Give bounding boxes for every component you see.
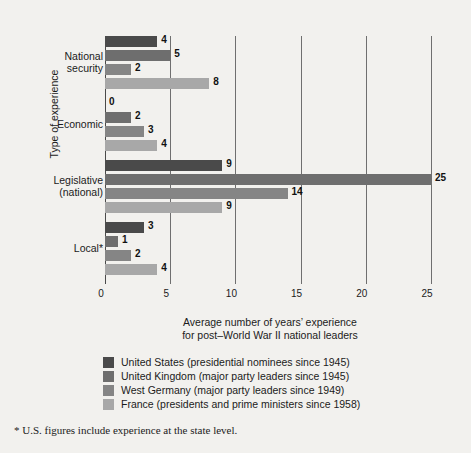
x-tick-label-5: 5 [163,288,169,299]
bar[interactable] [105,126,144,137]
bar[interactable] [105,236,118,247]
category-label-line: Local* [45,242,103,254]
bar-chart: Type of experience 452802349251493124 Na… [0,0,471,453]
bar-row[interactable]: 2 [105,250,431,261]
x-tick-label-25: 25 [421,288,432,299]
footnote: * U.S. figures include experience at the… [14,424,237,436]
bar-group: 925149 [105,160,431,216]
bar-row[interactable]: 4 [105,264,431,275]
bar-value-label: 3 [148,124,154,135]
legend-label: United States (presidential nominees sin… [121,356,350,368]
bar[interactable] [105,36,157,47]
legend-swatch-icon [103,385,114,396]
bar-row[interactable]: 2 [105,64,431,75]
bar[interactable] [105,250,131,261]
bar-value-label: 2 [135,62,141,73]
category-label: Legislative(national) [45,174,103,198]
bar-group: 4528 [105,36,431,92]
bar-value-label: 4 [161,138,167,149]
bar[interactable] [105,222,144,233]
bar-row[interactable]: 1 [105,236,431,247]
bar-value-label: 9 [226,158,232,169]
legend-item[interactable]: United Kingdom (major party leaders sinc… [103,369,360,383]
bar[interactable] [105,188,288,199]
x-tick-label-0: 0 [98,288,104,299]
legend-label: United Kingdom (major party leaders sinc… [121,370,349,382]
bar-value-label: 2 [135,110,141,121]
bar-value-label: 4 [161,34,167,45]
bar-group: 3124 [105,222,431,278]
bar-row[interactable]: 3 [105,222,431,233]
x-tick-label-10: 10 [226,288,237,299]
bar-value-label: 25 [435,172,446,183]
bar[interactable] [105,140,157,151]
x-tick-label-20: 20 [356,288,367,299]
bar-row[interactable]: 14 [105,188,431,199]
x-axis-title-line-1: Average number of years’ experience [105,316,435,329]
bar-row[interactable]: 3 [105,126,431,137]
legend-item[interactable]: West Germany (major party leaders since … [103,383,360,397]
bar-row[interactable]: 4 [105,36,431,47]
bar-value-label: 0 [109,96,115,107]
legend-swatch-icon [103,399,114,410]
category-label-line: Economic [45,118,103,130]
legend-label: France (presidents and prime ministers s… [121,398,360,410]
bar[interactable] [105,160,222,171]
category-label-line: (national) [45,186,103,198]
category-label: Nationalsecurity [45,50,103,74]
legend-swatch-icon [103,357,114,368]
bar-row[interactable]: 5 [105,50,431,61]
bar-value-label: 3 [148,220,154,231]
category-label: Local* [45,242,103,254]
bar-row[interactable]: 9 [105,202,431,213]
bar[interactable] [105,264,157,275]
bar-value-label: 9 [226,200,232,211]
bar-row[interactable]: 0 [105,98,431,109]
category-label-line: National [45,50,103,62]
bar[interactable] [105,50,170,61]
bar-row[interactable]: 9 [105,160,431,171]
bar-group: 0234 [105,98,431,154]
bar[interactable] [105,64,131,75]
bar-value-label: 14 [292,186,303,197]
gridline-25 [431,36,432,284]
legend: United States (presidential nominees sin… [103,355,360,411]
category-label-line: Legislative [45,174,103,186]
bar-row[interactable]: 2 [105,112,431,123]
x-axis-title-line-2: for post–World War II national leaders [105,329,435,342]
plot-area: 452802349251493124 [105,36,431,284]
bar-value-label: 4 [161,262,167,273]
category-label: Economic [45,118,103,130]
legend-swatch-icon [103,371,114,382]
legend-label: West Germany (major party leaders since … [121,384,344,396]
bar-row[interactable]: 8 [105,78,431,89]
x-axis-title: Average number of years’ experience for … [105,316,435,342]
legend-item[interactable]: United States (presidential nominees sin… [103,355,360,369]
legend-item[interactable]: France (presidents and prime ministers s… [103,397,360,411]
bar[interactable] [105,112,131,123]
bar-value-label: 5 [174,48,180,59]
bar[interactable] [105,174,431,185]
category-label-line: security [45,62,103,74]
bar[interactable] [105,202,222,213]
bar-value-label: 2 [135,248,141,259]
bar-value-label: 1 [122,234,128,245]
bar-row[interactable]: 25 [105,174,431,185]
bar-value-label: 8 [213,76,219,87]
bar[interactable] [105,78,209,89]
bar-row[interactable]: 4 [105,140,431,151]
x-tick-label-15: 15 [291,288,302,299]
